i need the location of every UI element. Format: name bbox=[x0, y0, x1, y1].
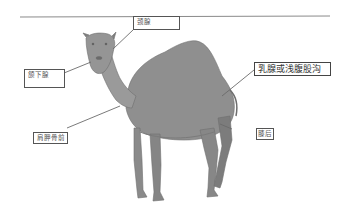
label-submandibular-gland: 颌下腺 bbox=[24, 69, 65, 88]
label-prescapular: 肩胛骨前 bbox=[33, 132, 68, 144]
label-neck-gland-text: 颈腺 bbox=[137, 18, 151, 26]
camel-illustration bbox=[0, 0, 347, 213]
label-submandibular-gland-text: 颌下腺 bbox=[28, 71, 49, 79]
label-mammary-or-superficial-inguinal: 乳腺或浅腹股沟 bbox=[254, 62, 331, 76]
camel-lymph-node-diagram: 颈腺 颌下腺 乳腺或浅腹股沟 肩胛骨前 膝后 bbox=[0, 0, 347, 213]
pointer-prescapular bbox=[67, 106, 120, 128]
camel-figure bbox=[83, 32, 237, 201]
label-prefemoral: 膝后 bbox=[256, 128, 274, 140]
label-mammary-text: 乳腺或浅腹股沟 bbox=[258, 64, 321, 74]
pointer-submandibular bbox=[64, 62, 91, 73]
label-prefemoral-text: 膝后 bbox=[258, 130, 272, 138]
label-prescapular-text: 肩胛骨前 bbox=[37, 134, 65, 142]
label-neck-gland: 颈腺 bbox=[133, 16, 180, 30]
